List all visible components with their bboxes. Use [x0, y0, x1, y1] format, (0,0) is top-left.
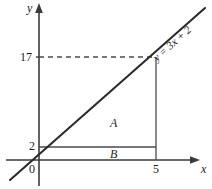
x-axis-arrowhead	[190, 156, 200, 164]
x-axis-label: x	[201, 163, 206, 175]
y-tick-label-2: 2	[29, 140, 35, 152]
x-tick-label-5: 5	[153, 163, 159, 175]
y-axis-arrowhead	[35, 3, 43, 13]
y-axis-label: y	[27, 2, 32, 14]
graph-figure: y x 0 17 2 5 A B y = 3x + 2	[0, 0, 212, 189]
origin-label: 0	[29, 163, 35, 175]
y-tick-label-17: 17	[20, 51, 32, 63]
region-a-label: A	[110, 117, 117, 129]
region-b-label: B	[110, 148, 117, 160]
